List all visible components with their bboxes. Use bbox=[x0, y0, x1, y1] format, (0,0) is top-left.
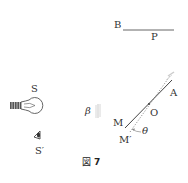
label-theta: θ bbox=[142, 126, 148, 136]
pivot-point-o bbox=[148, 103, 150, 105]
label-a: A bbox=[170, 88, 177, 98]
label-b: B bbox=[114, 20, 121, 30]
rotated-mirror-dotted-line bbox=[130, 76, 170, 132]
label-m: M bbox=[113, 118, 123, 128]
label-o: O bbox=[150, 108, 158, 118]
diagram-figure: B P S S′ β M M′ O A θ 図 7 bbox=[0, 0, 188, 183]
diagram-canvas bbox=[0, 0, 188, 183]
eye-icon bbox=[34, 131, 40, 139]
caption-prefix: 図 bbox=[82, 157, 91, 167]
beta-shade-strip bbox=[96, 104, 100, 118]
label-p: P bbox=[151, 32, 158, 42]
light-bulb-icon bbox=[10, 97, 43, 113]
label-m-prime: M′ bbox=[119, 135, 132, 145]
label-s-prime: S′ bbox=[35, 146, 44, 156]
label-beta: β bbox=[85, 106, 91, 116]
caption-number: 7 bbox=[94, 157, 100, 167]
label-s: S bbox=[31, 84, 38, 94]
theta-arrow-icon bbox=[132, 129, 141, 132]
figure-caption: 図 7 bbox=[82, 158, 100, 167]
